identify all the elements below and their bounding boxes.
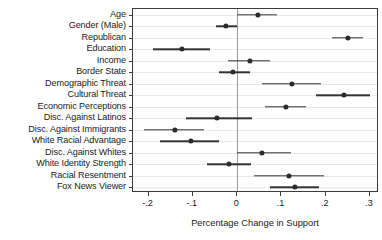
category-label: Disc. Against Whites xyxy=(45,147,126,157)
plot-inner xyxy=(133,9,377,191)
gridline xyxy=(133,118,377,119)
gridline xyxy=(133,107,377,108)
y-axis-tick xyxy=(129,107,133,108)
x-axis-tick-label: .3 xyxy=(365,198,373,208)
category-label: Border State xyxy=(76,66,126,76)
estimate-point xyxy=(227,162,232,167)
category-label: Fox News Viewer xyxy=(57,181,126,191)
y-axis-tick xyxy=(129,164,133,165)
estimate-point xyxy=(345,35,350,40)
estimate-point xyxy=(188,139,193,144)
gridline xyxy=(133,187,377,188)
x-axis-tick xyxy=(369,192,370,196)
estimate-point xyxy=(247,58,252,63)
category-label: Age xyxy=(110,9,126,19)
y-axis-tick xyxy=(129,38,133,39)
x-axis-tick xyxy=(192,192,193,196)
y-axis-tick xyxy=(129,61,133,62)
confidence-interval xyxy=(237,152,291,153)
category-label: Cultural Threat xyxy=(68,89,126,99)
estimate-point xyxy=(180,47,185,52)
category-label: Racial Resentment xyxy=(51,170,126,180)
estimate-point xyxy=(223,24,228,29)
x-axis-tick xyxy=(148,192,149,196)
estimate-point xyxy=(259,150,264,155)
y-axis-tick xyxy=(129,15,133,16)
estimate-point xyxy=(286,173,291,178)
x-axis-title: Percentage Change in Support xyxy=(132,218,378,228)
x-axis-tick-label: .2 xyxy=(321,198,329,208)
estimate-point xyxy=(255,12,260,17)
y-axis-tick xyxy=(129,130,133,131)
gridline xyxy=(133,84,377,85)
y-axis-tick xyxy=(129,118,133,119)
x-axis-tick-label: -.1 xyxy=(187,198,198,208)
estimate-point xyxy=(283,104,288,109)
estimate-point xyxy=(230,70,235,75)
estimate-point xyxy=(173,127,178,132)
x-axis-tick-label: -.2 xyxy=(142,198,153,208)
x-axis-tick xyxy=(236,192,237,196)
y-axis-tick xyxy=(129,84,133,85)
estimate-point xyxy=(341,93,346,98)
category-label: Gender (Male) xyxy=(69,20,126,30)
gridline xyxy=(133,72,377,73)
estimate-point xyxy=(215,116,220,121)
x-axis-tick xyxy=(280,192,281,196)
category-label: Republican xyxy=(82,32,127,42)
category-label: Economic Perceptions xyxy=(38,101,126,111)
x-axis-tick-label: 0 xyxy=(234,198,239,208)
gridline xyxy=(133,26,377,27)
y-axis-tick xyxy=(129,153,133,154)
plot-area xyxy=(132,8,378,192)
category-label: Demographic Threat xyxy=(45,78,126,88)
x-axis-tick xyxy=(325,192,326,196)
category-label: White Racial Advantage xyxy=(32,135,126,145)
gridline xyxy=(133,164,377,165)
y-axis-tick xyxy=(129,49,133,50)
y-axis-tick xyxy=(129,176,133,177)
category-label: Income xyxy=(97,55,126,65)
category-axis-labels: AgeGender (Male)RepublicanEducationIncom… xyxy=(0,8,130,192)
category-label: Education xyxy=(86,43,126,53)
y-axis-tick xyxy=(129,72,133,73)
y-axis-tick xyxy=(129,141,133,142)
category-label: Disc. Against Immigrants xyxy=(28,124,126,134)
estimate-point xyxy=(292,185,297,190)
coefficient-plot-figure: AgeGender (Male)RepublicanEducationIncom… xyxy=(0,0,382,240)
y-axis-tick xyxy=(129,187,133,188)
y-axis-tick xyxy=(129,95,133,96)
x-axis-tick-label: .1 xyxy=(277,198,285,208)
y-axis-tick xyxy=(129,26,133,27)
category-label: White Identity Strength xyxy=(36,158,126,168)
category-label: Disc. Against Latinos xyxy=(44,112,126,122)
estimate-point xyxy=(290,81,295,86)
